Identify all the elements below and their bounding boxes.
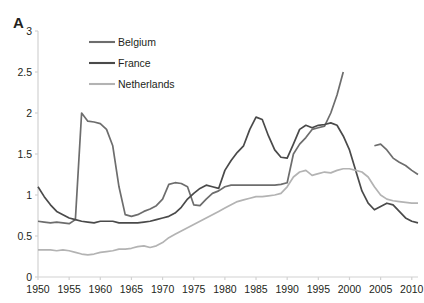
x-tick-label: 1955 — [57, 283, 81, 295]
line-chart: 00.511.522.53 19501955196019651970197519… — [0, 0, 424, 303]
legend-label-belgium: Belgium — [118, 36, 156, 48]
y-tick-label: 2 — [26, 107, 32, 119]
series-line-netherlands — [38, 169, 418, 255]
y-tick-label: 1 — [26, 189, 32, 201]
y-tick-label: 2.5 — [17, 66, 32, 78]
legend-label-france: France — [118, 57, 151, 69]
x-tick-label: 1980 — [213, 283, 237, 295]
legend-label-netherlands: Netherlands — [118, 78, 175, 90]
chart-container: A 00.511.522.53 195019551960196519701975… — [0, 0, 424, 303]
x-tick-label: 2000 — [338, 283, 362, 295]
y-axis-tick-labels: 00.511.522.53 — [17, 25, 32, 283]
data-series-group — [38, 72, 418, 255]
y-tick-label: 0 — [26, 271, 32, 283]
x-tick-label: 1975 — [182, 283, 206, 295]
y-tick-label: 0.5 — [17, 230, 32, 242]
chart-legend: BelgiumFranceNetherlands — [89, 36, 175, 90]
x-tick-label: 1990 — [276, 283, 300, 295]
x-tick-label: 1985 — [244, 283, 268, 295]
x-tick-label: 2010 — [400, 283, 424, 295]
x-tick-label: 2005 — [369, 283, 393, 295]
x-tick-label: 1965 — [120, 283, 144, 295]
x-axis-tick-labels: 1950195519601965197019751980198519901995… — [26, 283, 423, 295]
x-tick-label: 1950 — [26, 283, 50, 295]
y-tick-label: 1.5 — [17, 148, 32, 160]
x-tick-label: 1960 — [89, 283, 113, 295]
x-tick-label: 1970 — [151, 283, 175, 295]
axis-tick-marks — [35, 31, 412, 280]
series-line-belgium — [38, 72, 418, 224]
y-tick-label: 3 — [26, 25, 32, 37]
x-tick-label: 1995 — [307, 283, 331, 295]
